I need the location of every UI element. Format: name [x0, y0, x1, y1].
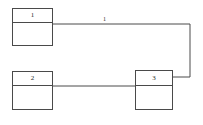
block-node-1-label: 1 — [31, 12, 35, 19]
diagram-canvas: 1 2 3 1 — [0, 0, 203, 125]
block-node-1[interactable]: 1 — [12, 8, 53, 46]
block-node-3[interactable]: 3 — [135, 70, 173, 110]
block-node-3-body — [136, 86, 172, 109]
block-node-1-header: 1 — [13, 9, 52, 23]
connector-label-1: 1 — [103, 16, 106, 22]
block-node-2[interactable]: 2 — [12, 71, 53, 110]
block-node-2-label: 2 — [31, 75, 35, 82]
block-node-3-header: 3 — [136, 71, 172, 86]
block-node-1-body — [13, 23, 52, 45]
block-node-2-header: 2 — [13, 72, 52, 86]
block-node-2-body — [13, 86, 52, 109]
block-node-3-label: 3 — [152, 75, 156, 82]
